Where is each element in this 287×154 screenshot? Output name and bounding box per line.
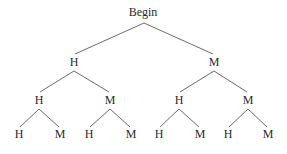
tree-node-label: M: [243, 93, 254, 107]
tree-edge-n5-n12: [179, 109, 199, 127]
tree-node-label: H: [35, 93, 44, 107]
tree-edge-n2-n5: [180, 71, 214, 92]
root-node-label: Begin: [129, 5, 158, 19]
tree-edge-n5-n11: [160, 109, 179, 127]
tree-node-label: H: [70, 55, 79, 69]
tree-edge-n0-n1: [75, 23, 144, 54]
tree-edge-n6-n13: [229, 109, 248, 127]
tree-node-label: M: [55, 127, 66, 141]
tree-diagram: BeginHMHMHMHMHMHMHM: [0, 0, 287, 154]
tree-edge-n3-n7: [20, 109, 39, 127]
tree-edge-n2-n6: [214, 71, 247, 92]
tree-node-label: M: [209, 55, 220, 69]
tree-node-label: M: [105, 93, 116, 107]
tree-edge-n1-n3: [40, 71, 74, 92]
tree-edge-n0-n2: [144, 23, 213, 54]
tree-node-label: H: [155, 127, 164, 141]
tree-nodes: BeginHMHMHMHMHMHMHM: [15, 5, 274, 141]
tree-edge-n3-n8: [39, 109, 59, 127]
tree-edge-n1-n4: [74, 71, 109, 92]
tree-edge-n4-n10: [110, 109, 130, 127]
tree-node-label: H: [15, 127, 24, 141]
tree-node-label: H: [85, 127, 94, 141]
tree-node-label: H: [224, 127, 233, 141]
tree-edge-n4-n9: [90, 109, 110, 127]
tree-node-label: H: [175, 93, 184, 107]
tree-node-label: M: [263, 127, 274, 141]
tree-edges: [20, 23, 267, 127]
tree-edge-n6-n14: [248, 109, 267, 127]
tree-node-label: M: [195, 127, 206, 141]
tree-node-label: M: [126, 127, 137, 141]
